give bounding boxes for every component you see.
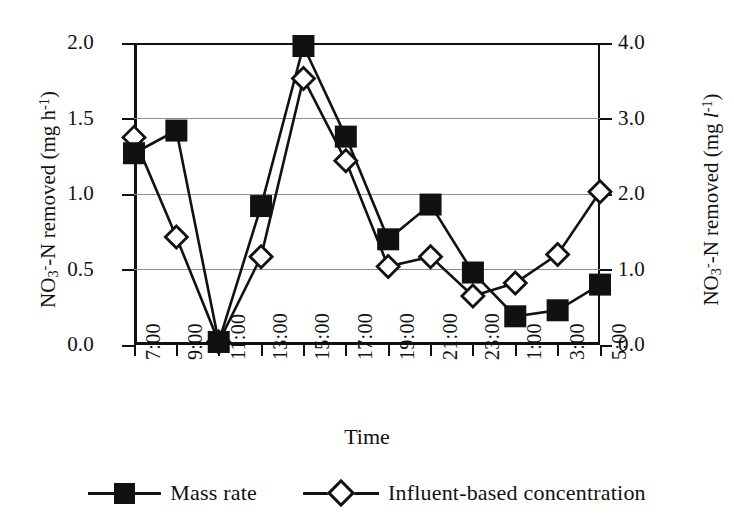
data-point-marker-square (336, 127, 356, 147)
data-point-marker-diamond (165, 226, 187, 248)
data-point-marker-diamond (377, 255, 399, 277)
open-diamond-icon (327, 479, 355, 507)
legend-line-segment (303, 492, 329, 495)
data-point-marker-square (251, 196, 271, 216)
legend-label-mass-rate: Mass rate (170, 480, 257, 506)
data-point-marker-square (209, 332, 229, 352)
data-point-marker-square (421, 195, 441, 215)
data-point-marker-square (124, 143, 144, 163)
legend-entry-mass-rate: Mass rate (88, 480, 257, 506)
series-line-mass-rate (134, 46, 600, 342)
legend-line-segment (88, 492, 114, 495)
data-point-marker-diamond (547, 243, 569, 265)
left-axis-title: NO3--N removed (mg h-1) (36, 49, 63, 349)
data-point-marker-diamond (504, 272, 526, 294)
data-point-marker-diamond (589, 181, 611, 203)
filled-square-icon (114, 483, 135, 504)
data-point-marker-square (378, 229, 398, 249)
data-point-marker-square (293, 36, 313, 56)
data-point-marker-square (463, 263, 483, 283)
legend-line-segment (135, 492, 161, 495)
series-line-influent-based-concentration (134, 78, 600, 341)
data-point-marker-square (166, 121, 186, 141)
legend-entry-influent-based-concentration: Influent-based concentration (303, 480, 646, 506)
x-axis-title: Time (0, 424, 734, 450)
chart-figure: 0.00.51.01.52.0 0.01.02.03.04.0 7:009:00… (0, 0, 734, 527)
data-point-marker-diamond (250, 246, 272, 268)
chart-legend: Mass rate Influent-based concentration (0, 480, 734, 506)
data-point-marker-square (590, 275, 610, 295)
data-point-marker-square (548, 300, 568, 320)
legend-line-segment (353, 492, 379, 495)
legend-label-influent-based-concentration: Influent-based concentration (388, 480, 646, 506)
data-point-marker-square (505, 306, 525, 326)
right-axis-title: NO3--N removed (mg l-1) (699, 49, 726, 349)
